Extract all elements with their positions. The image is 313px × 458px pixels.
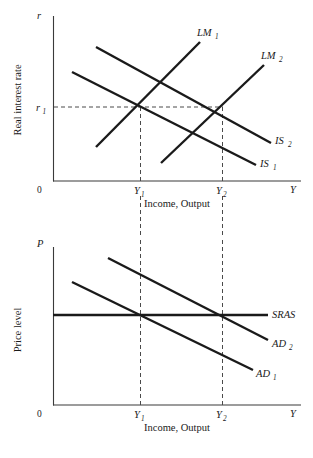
top-origin-label: 0 [37, 185, 42, 195]
label-ad1-sub: 1 [273, 374, 277, 382]
bottom-tick-y1: Y 1 [134, 409, 145, 423]
label-ad2-base: AD [271, 338, 286, 349]
top-tick-y1: Y 1 [134, 185, 145, 199]
curve-ad1 [72, 282, 253, 370]
bottom-tick-y2-sub: 2 [223, 415, 227, 423]
label-is1-base: IS [259, 158, 269, 169]
label-ad1-base: AD [255, 368, 270, 379]
top-x-axis-symbol: Y [290, 184, 297, 195]
top-tick-y1-base: Y [134, 185, 141, 196]
bottom-tick-y2: Y 2 [216, 409, 227, 423]
curve-lm2 [161, 65, 264, 163]
label-is1: IS 1 [259, 158, 277, 172]
top-tick-r1-base: r [36, 102, 41, 113]
label-ad2-sub: 2 [289, 344, 293, 352]
label-ad2: AD 2 [271, 338, 293, 352]
label-sras: SRAS [272, 309, 296, 320]
bottom-tick-y1-sub: 1 [141, 415, 145, 423]
top-x-axis-title: Income, Output [144, 198, 210, 209]
label-is2-base: IS [274, 135, 284, 146]
bottom-y-axis-title: Price level [12, 308, 23, 353]
ad-sras-chart: P Y 0 Price level Income, Output Y 1 Y 2… [12, 238, 301, 433]
top-y-axis-title: Real interest rate [12, 64, 23, 135]
bottom-tick-y1-base: Y [134, 409, 141, 420]
bottom-origin-label: 0 [37, 409, 42, 419]
label-lm1-sub: 1 [215, 33, 219, 41]
label-lm1: LM 1 [196, 27, 219, 41]
bottom-x-axis-symbol: Y [290, 408, 297, 419]
economics-figure: r Y 0 Real interest rate Income, Output … [0, 0, 313, 458]
top-tick-y2: Y 2 [216, 185, 227, 199]
bottom-tick-y2-base: Y [216, 409, 223, 420]
label-lm2: LM 2 [260, 50, 283, 64]
bottom-x-axis-title: Income, Output [144, 422, 210, 433]
top-tick-r1-sub: 1 [43, 108, 47, 116]
label-is1-sub: 1 [273, 164, 277, 172]
curve-ad2 [108, 258, 268, 340]
bottom-y-axis-symbol: P [36, 238, 44, 249]
label-sras-base: SRAS [272, 309, 296, 320]
label-is2: IS 2 [274, 135, 292, 149]
top-tick-y2-sub: 2 [223, 191, 227, 199]
top-y-axis-symbol: r [37, 10, 42, 21]
label-is2-sub: 2 [288, 141, 292, 149]
diagram-svg: r Y 0 Real interest rate Income, Output … [0, 0, 313, 458]
label-ad1: AD 1 [255, 368, 277, 382]
top-tick-r1: r 1 [36, 102, 46, 116]
label-lm2-sub: 2 [279, 56, 283, 64]
top-tick-y1-sub: 1 [141, 191, 145, 199]
is-lm-chart: r Y 0 Real interest rate Income, Output … [12, 10, 301, 235]
label-lm2-base: LM [260, 50, 277, 61]
label-lm1-base: LM [196, 27, 213, 38]
top-tick-y2-base: Y [216, 185, 223, 196]
